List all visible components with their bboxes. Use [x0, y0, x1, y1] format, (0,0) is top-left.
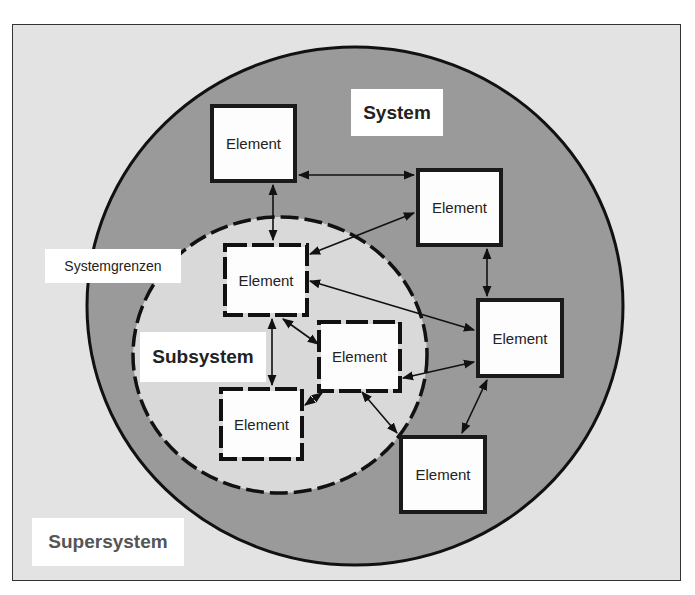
element-box-sys-top-right[interactable]: Element: [416, 168, 503, 247]
supersystem-label: Supersystem: [32, 518, 184, 566]
element-label: Element: [492, 330, 547, 347]
element-label: Element: [415, 466, 470, 483]
element-label: Element: [238, 272, 293, 289]
subsystem-label: Subsystem: [140, 332, 266, 382]
element-box-sys-bottom-right[interactable]: Element: [399, 435, 487, 514]
element-label: Element: [234, 416, 289, 433]
system-diagram: Element Element Element Element Element …: [0, 0, 695, 595]
element-label: Element: [432, 199, 487, 216]
system-label: System: [351, 89, 443, 136]
element-box-sub-bottom[interactable]: Element: [223, 391, 300, 457]
systemgrenzen-label: Systemgrenzen: [45, 249, 181, 283]
element-box-sub-middle[interactable]: Element: [321, 324, 398, 389]
element-box-sys-top-left[interactable]: Element: [210, 104, 297, 183]
element-box-sys-right[interactable]: Element: [476, 298, 564, 378]
diagram-shapes: [0, 0, 695, 595]
element-box-sub-top[interactable]: Element: [227, 247, 305, 313]
element-label: Element: [332, 348, 387, 365]
element-label: Element: [226, 135, 281, 152]
